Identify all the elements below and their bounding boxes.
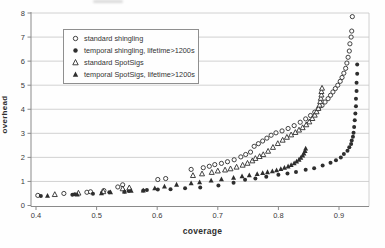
svg-text:0.8: 0.8: [273, 211, 283, 220]
filled-circle-icon: [71, 46, 80, 55]
svg-text:0.4: 0.4: [31, 211, 41, 220]
legend-item: standard SpotSigs: [71, 57, 196, 68]
legend-item: temporal SpotSigs, lifetime>1200s: [71, 69, 196, 80]
y-axis-title: overhead: [0, 83, 9, 147]
legend-item: standard shingling: [71, 33, 196, 44]
svg-text:0.7: 0.7: [213, 211, 223, 220]
svg-text:4: 4: [21, 105, 25, 114]
legend-label: standard SpotSigs: [84, 58, 144, 67]
svg-text:0: 0: [21, 201, 25, 210]
svg-text:1: 1: [21, 177, 25, 186]
svg-text:0.6: 0.6: [152, 211, 162, 220]
open-triangle-icon: [71, 58, 80, 67]
open-circle-icon: [71, 34, 80, 43]
svg-text:5: 5: [21, 81, 25, 90]
legend-label: temporal shingling, lifetime>1200s: [84, 46, 195, 55]
svg-text:2: 2: [21, 153, 25, 162]
svg-text:0.9: 0.9: [334, 211, 344, 220]
filled-triangle-icon: [71, 70, 80, 79]
svg-text:3: 3: [21, 129, 25, 138]
legend: standard shingling temporal shingling, l…: [63, 29, 199, 84]
legend-item: temporal shingling, lifetime>1200s: [71, 45, 196, 56]
svg-text:6: 6: [21, 57, 25, 66]
svg-text:8: 8: [21, 9, 25, 18]
chart-figure: 0123456780.40.50.60.70.80.9 overhead cov…: [0, 0, 385, 248]
legend-label: temporal SpotSigs, lifetime>1200s: [84, 70, 195, 79]
svg-text:7: 7: [21, 33, 25, 42]
legend-label: standard shingling: [84, 34, 143, 43]
x-axis-title: coverage: [36, 226, 369, 236]
svg-text:0.5: 0.5: [91, 211, 101, 220]
